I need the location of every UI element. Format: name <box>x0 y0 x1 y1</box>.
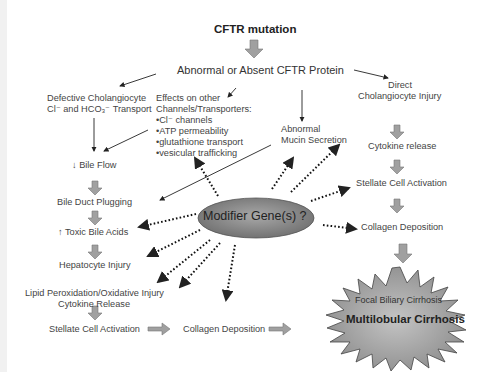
modifier-genes-label: Modifier Gene(s) ? <box>203 211 307 222</box>
effects-heading-line2: Channels/Transporters: <box>156 104 252 115</box>
effects-item-atp: •ATP permeability <box>156 126 228 137</box>
direct-injury-line1: Direct <box>360 80 440 91</box>
hepatocyte-injury: Hepatocyte Injury <box>59 260 131 271</box>
abnormal-protein-label: Abnormal or Absent CFTR Protein <box>177 65 344 76</box>
direct-injury-line2: Cholangiocyte Injury <box>358 91 441 102</box>
effects-item-glutathione: •glutathione transport <box>156 137 243 148</box>
effects-item-vesicular: •vesicular trafficking <box>156 148 237 159</box>
mucin-line2: Mucin Secretion <box>281 135 347 146</box>
mucin-line1: Abnormal <box>281 124 320 135</box>
left-stellate-activation: Stellate Cell Activation <box>49 324 140 335</box>
multilobular-cirrhosis: Multilobular Cirrhosis <box>346 314 465 325</box>
effects-heading-line1: Effects on other <box>156 93 220 104</box>
left-collagen-deposition: Collagen Deposition <box>183 324 265 335</box>
focal-biliary-cirrhosis: Focal Biliary Cirrhosis <box>355 295 442 306</box>
bile-flow: ↓ Bile Flow <box>72 160 116 171</box>
toxic-bile-acids: ↑ Toxic Bile Acids <box>58 227 128 238</box>
left-cytokine-release: Cytokine Release <box>58 299 130 310</box>
lipid-peroxidation: Lipid Peroxidation/Oxidative Injury <box>25 288 164 299</box>
defective-transport-line1: Defective Cholangiocyte <box>47 93 146 104</box>
right-cytokine-release: Cytokine release <box>368 141 436 152</box>
right-collagen-deposition: Collagen Deposition <box>361 222 443 233</box>
right-stellate-activation: Stellate Cell Activation <box>356 178 447 189</box>
effects-item-cl-channels: •Cl⁻ channels <box>156 115 212 126</box>
cftr-mutation-title: CFTR mutation <box>214 24 296 35</box>
defective-transport-line2: Cl⁻ and HCO₃⁻ Transport <box>47 104 152 115</box>
bile-duct-plugging: Bile Duct Plugging <box>57 197 132 208</box>
